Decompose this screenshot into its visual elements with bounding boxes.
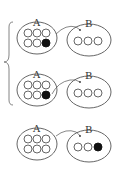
circle (84, 143, 92, 151)
circle (74, 37, 82, 45)
circle (42, 29, 50, 37)
set-a-label: A (32, 69, 41, 80)
circle-filled (42, 91, 50, 99)
circle (84, 89, 92, 97)
circle (24, 145, 32, 153)
circle (74, 89, 82, 97)
circle-filled (42, 39, 50, 47)
transfer-arrow (56, 26, 80, 34)
circle-filled (94, 143, 102, 151)
circle (74, 143, 82, 151)
row-2: A B (17, 69, 111, 108)
circle (42, 145, 50, 153)
arrow-head-dot (79, 29, 81, 31)
set-a-label: A (32, 123, 41, 134)
circle (84, 37, 92, 45)
circle (33, 135, 41, 143)
circle (24, 91, 32, 99)
circle (33, 81, 41, 89)
curly-brace (4, 22, 13, 105)
circle (24, 135, 32, 143)
set-b-label: B (85, 124, 92, 135)
circle (33, 29, 41, 37)
row-1: A B (17, 17, 111, 56)
set-b-label: B (85, 18, 92, 29)
circle (24, 39, 32, 47)
arrow-head-dot (79, 135, 81, 137)
circle (42, 81, 50, 89)
circle (33, 39, 41, 47)
circle (94, 37, 102, 45)
set-b-label: B (85, 70, 92, 81)
circle (33, 145, 41, 153)
circle (42, 135, 50, 143)
circle (33, 91, 41, 99)
arrow-head-dot (79, 81, 81, 83)
row-3: A B (17, 123, 111, 162)
diagram-canvas: A B A B A (0, 0, 119, 171)
circle (24, 29, 32, 37)
circle (94, 89, 102, 97)
set-a-label: A (32, 17, 41, 28)
circle (24, 81, 32, 89)
